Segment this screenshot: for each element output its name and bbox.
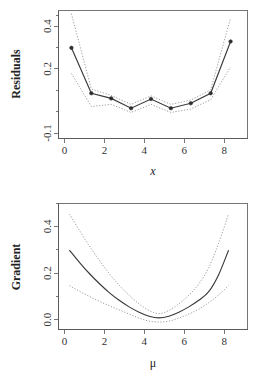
residuals-xtick-4: 8 (221, 144, 227, 156)
residuals-xtick-3: 6 (182, 144, 188, 156)
gradient-xtick-4: 8 (221, 335, 227, 347)
gradient-xtick-3: 6 (182, 335, 188, 347)
data-point-marker (129, 106, 133, 110)
residuals-plot-box (59, 11, 248, 139)
gradient-xtick-1: 2 (102, 335, 108, 347)
residuals-xtick-2: 4 (142, 144, 148, 156)
residuals-ytick-2: -0.1 (41, 124, 53, 141)
data-point-marker (209, 91, 213, 95)
data-point-marker (109, 97, 113, 101)
data-point-marker (70, 46, 74, 50)
residuals-y-axis (54, 11, 59, 139)
residuals-ytick-0: 0.4 (41, 19, 53, 33)
residuals-xtick-1: 2 (102, 144, 108, 156)
residuals-x-axis-title: x (149, 164, 156, 178)
gradient-y-axis (54, 204, 59, 330)
residuals-panel: 0.4 0.2 -0.1 Residuals 0 2 4 6 8 x (0, 0, 265, 191)
residuals-lower-band (71, 67, 230, 112)
gradient-plot-box (59, 204, 248, 330)
gradient-line (69, 250, 228, 318)
data-point-marker (229, 40, 233, 44)
residuals-upper-band (71, 14, 230, 105)
gradient-x-axis (59, 330, 248, 335)
gradient-ytick-1: 0.2 (41, 266, 53, 280)
residuals-y-axis-title: Residuals (9, 49, 23, 99)
data-point-marker (90, 91, 94, 95)
residuals-series-group (70, 14, 233, 113)
gradient-y-axis-title: Gradient (9, 244, 23, 291)
gradient-xtick-0: 0 (62, 335, 68, 347)
gradient-panel: 0.4 0.2 0.0 Gradient 0 2 4 6 8 μ (0, 191, 265, 382)
gradient-ytick-2: 0.0 (41, 312, 53, 326)
residuals-x-axis (59, 139, 248, 144)
figure-container: 0.4 0.2 -0.1 Residuals 0 2 4 6 8 x (0, 0, 265, 382)
gradient-xtick-2: 4 (142, 335, 148, 347)
residuals-ytick-1: 0.2 (41, 62, 53, 76)
residuals-markers (70, 40, 233, 110)
gradient-series-group (69, 214, 228, 322)
gradient-ytick-0: 0.4 (41, 219, 53, 233)
data-point-marker (149, 97, 153, 101)
data-point-marker (189, 102, 193, 106)
residuals-xtick-0: 0 (62, 144, 68, 156)
data-point-marker (169, 106, 173, 110)
gradient-x-axis-title: μ (150, 356, 156, 370)
